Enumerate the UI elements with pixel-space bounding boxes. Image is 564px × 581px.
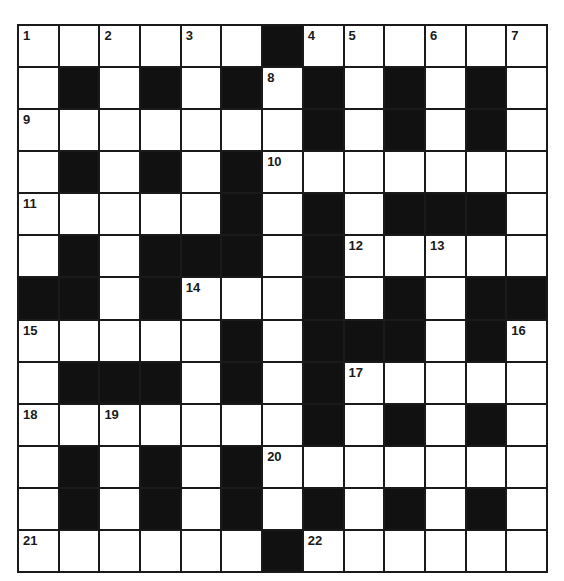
answer-cell[interactable]: 9 bbox=[19, 110, 58, 150]
answer-cell[interactable]: 22 bbox=[304, 531, 343, 571]
answer-cell[interactable]: 18 bbox=[19, 405, 58, 445]
answer-cell[interactable] bbox=[467, 447, 506, 487]
answer-cell[interactable] bbox=[100, 321, 139, 361]
answer-cell[interactable] bbox=[182, 321, 221, 361]
answer-cell[interactable] bbox=[304, 152, 343, 192]
answer-cell[interactable] bbox=[100, 68, 139, 108]
answer-cell[interactable] bbox=[426, 152, 465, 192]
answer-cell[interactable] bbox=[100, 194, 139, 234]
answer-cell[interactable] bbox=[263, 278, 302, 318]
answer-cell[interactable] bbox=[182, 363, 221, 403]
answer-cell[interactable] bbox=[507, 447, 546, 487]
answer-cell[interactable] bbox=[100, 236, 139, 276]
answer-cell[interactable] bbox=[263, 321, 302, 361]
answer-cell[interactable]: 15 bbox=[19, 321, 58, 361]
answer-cell[interactable] bbox=[467, 26, 506, 66]
answer-cell[interactable]: 6 bbox=[426, 26, 465, 66]
answer-cell[interactable] bbox=[507, 531, 546, 571]
answer-cell[interactable] bbox=[345, 110, 384, 150]
answer-cell[interactable] bbox=[426, 489, 465, 529]
answer-cell[interactable] bbox=[345, 405, 384, 445]
answer-cell[interactable] bbox=[222, 405, 261, 445]
answer-cell[interactable]: 10 bbox=[263, 152, 302, 192]
answer-cell[interactable] bbox=[60, 405, 99, 445]
answer-cell[interactable] bbox=[100, 278, 139, 318]
answer-cell[interactable] bbox=[385, 26, 424, 66]
answer-cell[interactable] bbox=[507, 68, 546, 108]
answer-cell[interactable] bbox=[182, 405, 221, 445]
answer-cell[interactable] bbox=[182, 110, 221, 150]
answer-cell[interactable] bbox=[345, 152, 384, 192]
answer-cell[interactable] bbox=[263, 110, 302, 150]
answer-cell[interactable] bbox=[345, 489, 384, 529]
answer-cell[interactable]: 17 bbox=[345, 363, 384, 403]
answer-cell[interactable]: 21 bbox=[19, 531, 58, 571]
answer-cell[interactable] bbox=[222, 278, 261, 318]
answer-cell[interactable] bbox=[263, 405, 302, 445]
answer-cell[interactable] bbox=[507, 236, 546, 276]
answer-cell[interactable]: 1 bbox=[19, 26, 58, 66]
answer-cell[interactable] bbox=[467, 152, 506, 192]
answer-cell[interactable] bbox=[60, 531, 99, 571]
answer-cell[interactable] bbox=[182, 194, 221, 234]
answer-cell[interactable] bbox=[182, 152, 221, 192]
answer-cell[interactable]: 16 bbox=[507, 321, 546, 361]
answer-cell[interactable]: 19 bbox=[100, 405, 139, 445]
answer-cell[interactable]: 13 bbox=[426, 236, 465, 276]
answer-cell[interactable] bbox=[426, 447, 465, 487]
answer-cell[interactable] bbox=[222, 26, 261, 66]
answer-cell[interactable] bbox=[426, 321, 465, 361]
answer-cell[interactable] bbox=[467, 531, 506, 571]
answer-cell[interactable]: 3 bbox=[182, 26, 221, 66]
answer-cell[interactable] bbox=[182, 531, 221, 571]
answer-cell[interactable] bbox=[345, 531, 384, 571]
answer-cell[interactable] bbox=[507, 110, 546, 150]
answer-cell[interactable] bbox=[426, 405, 465, 445]
answer-cell[interactable] bbox=[141, 194, 180, 234]
answer-cell[interactable]: 11 bbox=[19, 194, 58, 234]
answer-cell[interactable] bbox=[19, 68, 58, 108]
answer-cell[interactable] bbox=[60, 26, 99, 66]
answer-cell[interactable] bbox=[507, 363, 546, 403]
answer-cell[interactable] bbox=[385, 236, 424, 276]
answer-cell[interactable] bbox=[60, 321, 99, 361]
answer-cell[interactable] bbox=[345, 447, 384, 487]
answer-cell[interactable] bbox=[263, 489, 302, 529]
answer-cell[interactable] bbox=[222, 110, 261, 150]
answer-cell[interactable] bbox=[263, 363, 302, 403]
answer-cell[interactable] bbox=[222, 531, 261, 571]
answer-cell[interactable] bbox=[467, 363, 506, 403]
answer-cell[interactable] bbox=[426, 110, 465, 150]
answer-cell[interactable] bbox=[141, 321, 180, 361]
answer-cell[interactable] bbox=[345, 194, 384, 234]
answer-cell[interactable] bbox=[100, 152, 139, 192]
answer-cell[interactable] bbox=[182, 489, 221, 529]
answer-cell[interactable] bbox=[182, 68, 221, 108]
answer-cell[interactable]: 8 bbox=[263, 68, 302, 108]
answer-cell[interactable] bbox=[507, 489, 546, 529]
answer-cell[interactable] bbox=[507, 405, 546, 445]
answer-cell[interactable] bbox=[345, 278, 384, 318]
answer-cell[interactable]: 5 bbox=[345, 26, 384, 66]
answer-cell[interactable] bbox=[141, 110, 180, 150]
answer-cell[interactable] bbox=[19, 489, 58, 529]
answer-cell[interactable] bbox=[426, 68, 465, 108]
answer-cell[interactable] bbox=[141, 26, 180, 66]
answer-cell[interactable] bbox=[100, 489, 139, 529]
answer-cell[interactable] bbox=[263, 194, 302, 234]
answer-cell[interactable] bbox=[100, 447, 139, 487]
answer-cell[interactable] bbox=[141, 531, 180, 571]
answer-cell[interactable] bbox=[507, 194, 546, 234]
answer-cell[interactable] bbox=[182, 447, 221, 487]
answer-cell[interactable] bbox=[263, 236, 302, 276]
answer-cell[interactable] bbox=[345, 68, 384, 108]
answer-cell[interactable]: 7 bbox=[507, 26, 546, 66]
answer-cell[interactable]: 2 bbox=[100, 26, 139, 66]
answer-cell[interactable] bbox=[19, 447, 58, 487]
answer-cell[interactable] bbox=[60, 110, 99, 150]
answer-cell[interactable] bbox=[19, 152, 58, 192]
answer-cell[interactable] bbox=[385, 363, 424, 403]
answer-cell[interactable] bbox=[385, 531, 424, 571]
answer-cell[interactable]: 14 bbox=[182, 278, 221, 318]
answer-cell[interactable]: 4 bbox=[304, 26, 343, 66]
